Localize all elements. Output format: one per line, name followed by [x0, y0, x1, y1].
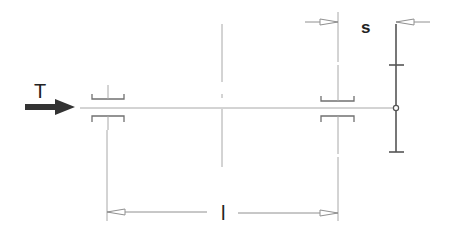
force-label: T: [34, 80, 46, 102]
force-arrow: [25, 99, 75, 115]
shaft-diagram: T s l: [0, 0, 452, 237]
span-label: l: [221, 202, 225, 224]
offset-label: s: [361, 18, 370, 37]
dial-indicator: [389, 24, 404, 152]
